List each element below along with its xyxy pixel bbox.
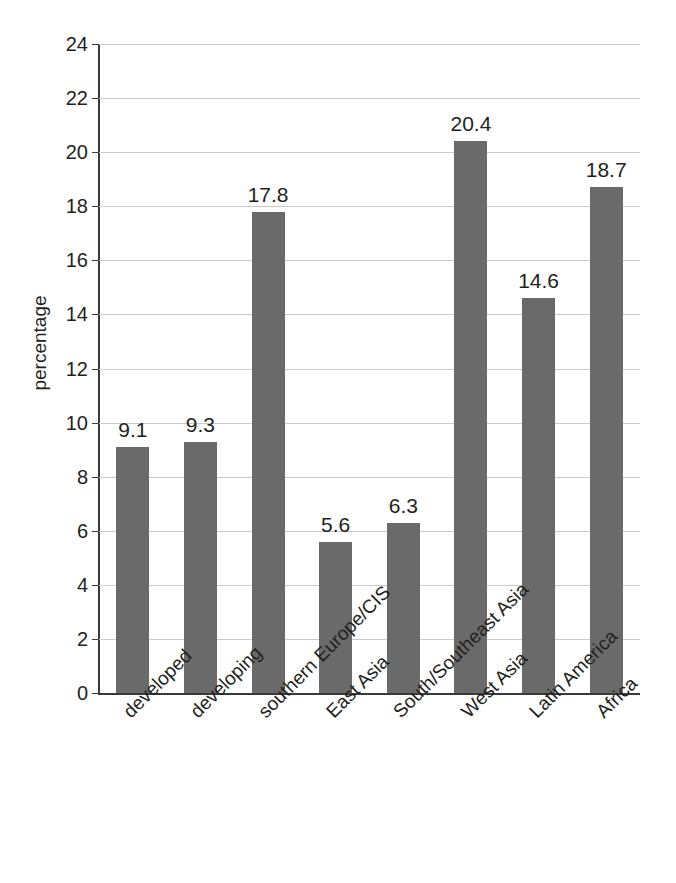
y-axis-tick-label: 2	[48, 629, 88, 649]
y-axis-tick	[92, 314, 99, 315]
gridline	[99, 314, 640, 315]
gridline	[99, 369, 640, 370]
bar	[252, 212, 285, 693]
y-axis-tick-label: 0	[48, 683, 88, 703]
bar	[454, 141, 487, 693]
y-axis-tick-label: 18	[48, 196, 88, 216]
bar	[522, 298, 555, 693]
y-axis-tick-label: 10	[48, 413, 88, 433]
bar-value-label: 18.7	[561, 159, 651, 180]
y-axis-tick	[92, 260, 99, 261]
y-axis-tick	[92, 531, 99, 532]
gridline	[99, 44, 640, 45]
y-axis-tick	[92, 98, 99, 99]
y-axis-tick	[92, 369, 99, 370]
y-axis-title: percentage	[29, 283, 51, 403]
gridline	[99, 260, 640, 261]
bar-chart: percentage 024681012141618202224 9.19.31…	[0, 0, 676, 883]
y-axis-tick-label: 24	[48, 34, 88, 54]
gridline	[99, 206, 640, 207]
y-axis-tick-label: 16	[48, 250, 88, 270]
bar-value-label: 5.6	[291, 514, 381, 535]
gridline	[99, 152, 640, 153]
y-axis-tick-label: 20	[48, 142, 88, 162]
y-axis-tick	[92, 206, 99, 207]
bar-value-label: 20.4	[426, 113, 516, 134]
bar	[387, 523, 420, 693]
gridline	[99, 639, 640, 640]
y-axis-tick	[92, 585, 99, 586]
y-axis-tick-label: 6	[48, 521, 88, 541]
bar-value-label: 17.8	[223, 184, 313, 205]
gridline	[99, 98, 640, 99]
bar	[590, 187, 623, 693]
y-axis-tick-label: 22	[48, 88, 88, 108]
y-axis-tick	[92, 152, 99, 153]
y-axis-tick-label: 8	[48, 467, 88, 487]
y-axis-tick-label: 4	[48, 575, 88, 595]
bar-value-label: 9.3	[155, 414, 245, 435]
y-axis-tick	[92, 44, 99, 45]
bar-value-label: 14.6	[494, 270, 584, 291]
y-axis-tick	[92, 639, 99, 640]
bar	[116, 447, 149, 693]
y-axis-tick-label: 12	[48, 359, 88, 379]
y-axis-tick-label: 14	[48, 304, 88, 324]
gridline	[99, 477, 640, 478]
bar-value-label: 6.3	[358, 495, 448, 516]
y-axis-tick	[92, 477, 99, 478]
gridline	[99, 585, 640, 586]
y-axis-tick	[92, 693, 99, 694]
